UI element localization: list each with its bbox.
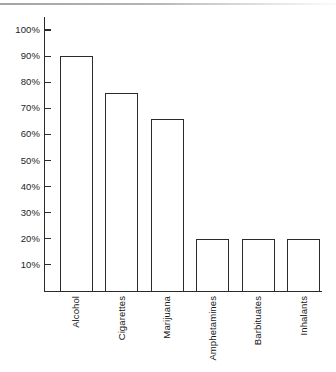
x-axis-label-marijuana: Marijuana <box>162 296 172 339</box>
x-axis-label-barbituates: Barbituates <box>253 296 263 345</box>
y-axis-line <box>44 17 45 292</box>
y-axis-tick-label: 50% <box>2 156 40 166</box>
x-axis-label-inhalants: Inhalants <box>299 296 309 335</box>
y-tick-90 <box>45 56 51 57</box>
y-tick-50 <box>45 160 51 161</box>
bar-inhalants <box>287 239 320 291</box>
y-tick-100 <box>45 29 51 30</box>
x-axis-label-cigarettes: Cigarettes <box>117 296 127 340</box>
bar-amphetamines <box>196 239 229 291</box>
y-axis-tick-label: 40% <box>2 182 40 192</box>
y-tick-30 <box>45 212 51 213</box>
bar-alcohol <box>60 56 93 291</box>
y-tick-60 <box>45 134 51 135</box>
y-axis-tick-label: 100% <box>2 25 40 35</box>
page-edge-line <box>0 3 336 5</box>
y-tick-70 <box>45 108 51 109</box>
x-axis-line <box>44 291 322 292</box>
y-axis-tick-label: 10% <box>2 260 40 270</box>
bar-cigarettes <box>105 93 138 291</box>
y-axis-tick-label: 80% <box>2 77 40 87</box>
y-tick-10 <box>45 264 51 265</box>
x-axis-label-alcohol: Alcohol <box>71 296 81 328</box>
bar-barbituates <box>242 239 275 291</box>
y-tick-20 <box>45 238 51 239</box>
y-axis-tick-label: 30% <box>2 208 40 218</box>
y-axis-tick-label: 60% <box>2 129 40 139</box>
y-axis-tick-label: 90% <box>2 51 40 61</box>
bar-marijuana <box>151 119 184 291</box>
bar-chart: 10%20%30%40%50%60%70%80%90%100% AlcoholC… <box>0 0 336 372</box>
x-axis-label-amphetamines: Amphetamines <box>208 296 218 361</box>
y-axis-tick-label: 20% <box>2 234 40 244</box>
y-axis-tick-label: 70% <box>2 103 40 113</box>
y-tick-80 <box>45 82 51 83</box>
y-tick-40 <box>45 186 51 187</box>
